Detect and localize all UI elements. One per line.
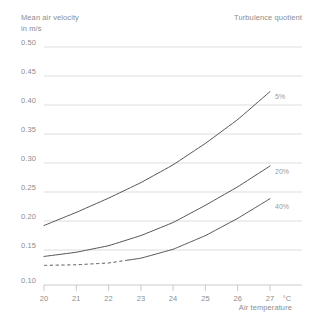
series-end-labels: 5% 20% 40% bbox=[275, 93, 289, 210]
gridlines bbox=[44, 47, 302, 250]
data-curves bbox=[44, 92, 270, 266]
y-tick-label-0.50: 0.50 bbox=[21, 38, 36, 47]
y-axis-tick-labels: 0.50 0.45 0.40 0.35 0.30 0.25 0.20 0.15 … bbox=[21, 38, 36, 285]
x-axis-unit-label: °C bbox=[283, 294, 292, 303]
curve-5-percent-main bbox=[44, 92, 270, 226]
x-tick-label-24: 24 bbox=[169, 294, 178, 303]
x-axis-tickmarks bbox=[44, 285, 270, 291]
x-tick-label-23: 23 bbox=[137, 294, 146, 303]
y-tick-label-0.30: 0.30 bbox=[21, 154, 36, 163]
x-tick-label-21: 21 bbox=[72, 294, 81, 303]
series-label-40-percent: 40% bbox=[275, 203, 289, 210]
y-tick-label-0.20: 0.20 bbox=[21, 212, 36, 221]
y-tick-label-0.15: 0.15 bbox=[21, 241, 36, 250]
y-tick-label-0.35: 0.35 bbox=[21, 125, 36, 134]
series-label-20-percent: 20% bbox=[275, 168, 289, 175]
x-tick-label-26: 26 bbox=[233, 294, 242, 303]
x-tick-label-20: 20 bbox=[40, 294, 49, 303]
series-label-5-percent: 5% bbox=[275, 93, 285, 100]
x-tick-label-25: 25 bbox=[201, 294, 210, 303]
x-tick-label-22: 22 bbox=[104, 294, 113, 303]
chart-plot-area: 0.50 0.45 0.40 0.35 0.30 0.25 0.20 0.15 … bbox=[0, 0, 310, 325]
x-axis-title: Air temperature bbox=[239, 303, 292, 312]
y-tick-label-0.45: 0.45 bbox=[21, 67, 36, 76]
curve-40-percent-dashed bbox=[44, 260, 128, 265]
x-axis-tick-labels: 20 21 22 23 24 25 26 27 °C bbox=[40, 294, 292, 303]
y-tick-label-0.10: 0.10 bbox=[21, 276, 36, 285]
chart-container: Mean air velocity in m/s Turbulence quot… bbox=[0, 0, 310, 325]
curve-40-percent bbox=[128, 199, 270, 260]
x-tick-label-27: 27 bbox=[266, 294, 275, 303]
y-tick-label-0.40: 0.40 bbox=[21, 96, 36, 105]
y-tick-label-0.25: 0.25 bbox=[21, 183, 36, 192]
